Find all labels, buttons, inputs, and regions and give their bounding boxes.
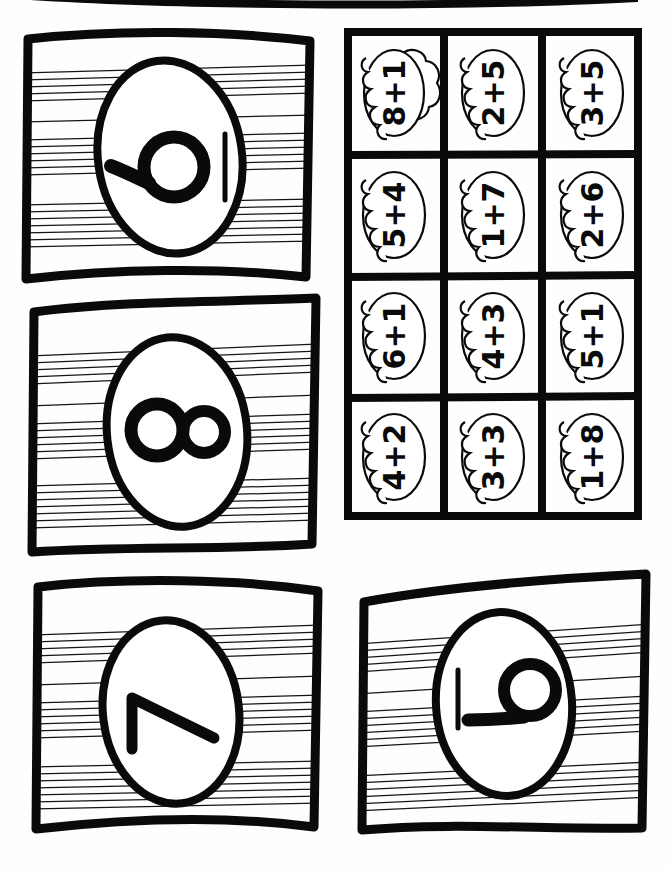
fact-cell[interactable]: 4+3 [461,293,524,382]
fact-cell[interactable]: 8+1 [362,50,440,139]
fact-text: 8+1 [377,60,412,127]
fact-text: 3+5 [575,60,610,127]
fact-cell[interactable]: 2+6 [560,172,623,261]
fact-text: 3+3 [476,424,511,491]
fact-text: 4+3 [476,303,511,370]
fact-text: 2+6 [575,182,610,249]
fact-text: 2+5 [476,60,511,127]
fact-text: 1+8 [575,424,610,491]
fact-cell[interactable]: 5+1 [560,293,623,382]
fact-cell[interactable]: 3+3 [461,414,524,503]
number-card-top-left[interactable]: 10 [18,27,318,289]
number-card-bottom-left[interactable]: 7 [28,577,328,839]
fact-cell[interactable]: 3+5 [560,50,623,139]
fact-cell[interactable]: 5+4 [362,172,425,261]
number-card-middle-left[interactable]: 8 [22,294,324,556]
fact-cell[interactable]: 6+1 [362,293,425,382]
fact-cell[interactable]: 2+5 [461,50,524,139]
fact-card-grid[interactable]: 8+1 2+5 3+5 5+4 1+7 [344,28,642,520]
fact-cell[interactable]: 1+7 [461,172,524,261]
fact-text: 5+1 [575,303,610,370]
number-card-bottom-right[interactable]: 10 [352,572,654,834]
top-cut-card-edge [30,0,640,12]
fact-cell[interactable]: 4+2 [362,414,425,503]
fact-text: 6+1 [377,303,412,370]
fact-text: 4+2 [377,424,412,491]
worksheet-page: 10 [0,0,670,869]
fact-text: 1+7 [476,182,511,249]
fact-cell[interactable]: 1+8 [560,414,623,503]
fact-text: 5+4 [377,182,412,249]
